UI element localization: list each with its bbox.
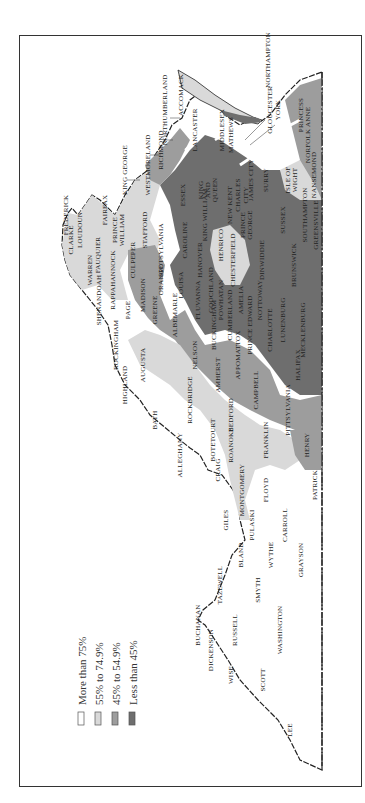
county-label: FREDERICK (62, 195, 70, 236)
county-label: CAMPBELL (252, 371, 260, 410)
county-label: WIGHT (291, 167, 299, 192)
county-label: RUSSELL (231, 614, 239, 646)
legend-item-more-than-75: More than 75% (76, 637, 88, 725)
county-label: CRAIG (214, 459, 222, 482)
county-label: MIDDLESEX (218, 109, 226, 151)
county-label: NANSEMOND (310, 152, 318, 199)
county-label: HENRY (303, 433, 311, 458)
county-label: AMHERST (214, 357, 222, 392)
legend-swatch (129, 712, 135, 725)
county-label: BUCHANAN (194, 604, 202, 645)
county-label: HANOVER (196, 242, 204, 278)
county-label: YORK (274, 100, 282, 121)
county-label: ALLEGHANY (176, 433, 184, 478)
legend-label: 55% to 74.9% (93, 642, 105, 705)
county-label: DICKENSON (207, 629, 215, 671)
county-label: ROCKBRIDGE (186, 376, 194, 424)
county-label: ESSEX (179, 184, 187, 206)
county-label: HENRICO (217, 229, 225, 262)
county-label: CULPEPER (129, 242, 137, 279)
county-label: FAUQUIER (94, 237, 102, 274)
legend-label: More than 75% (76, 637, 88, 705)
county-label: AUGUSTA (139, 348, 147, 382)
county-label: BOTETOURT (209, 418, 217, 461)
county-label: CARROLL (281, 508, 289, 542)
county-label: GEORGE (246, 210, 254, 240)
county-label: MADISON (139, 278, 147, 312)
county-label: KING WILLIAM (201, 188, 209, 241)
county-label: WARREN (86, 255, 94, 286)
county-label: LEE (286, 723, 294, 736)
county-label: GLOUCESTER (266, 86, 274, 134)
county-label: ORANGE (157, 265, 165, 295)
county-label: DINWIDDIE (258, 240, 266, 280)
county-label: NEW KENT (226, 186, 234, 224)
county-label: SUSSEX (279, 206, 287, 233)
legend-swatch (95, 712, 101, 725)
county-label: QUEEN (211, 178, 219, 203)
county-label: MATHEWS (227, 117, 235, 153)
county-label: WASHINGTON (276, 606, 284, 655)
county-label: FRANKLIN (262, 422, 270, 459)
county-label: LANCASTER (191, 108, 199, 151)
county-label: KING GEORGE (121, 145, 129, 195)
county-label: PULASKI (248, 509, 256, 540)
county-label: GREENSVILLE (312, 200, 320, 250)
county-label: PAGE (124, 301, 132, 319)
county-label: CAROLINE (181, 222, 189, 259)
county-label: NELSON (191, 341, 199, 370)
county-label: ROCKINGHAM (112, 319, 120, 370)
county-label: WILLIAM (118, 213, 126, 246)
legend-item-less-than-45: Less than 45% (127, 640, 139, 725)
county-label: PITTSYLVANIA (284, 384, 292, 435)
county-label: NORTHAMPTON (264, 32, 272, 87)
legend-item-55-to-74-9: 55% to 74.9% (93, 642, 105, 725)
legend-label: 45% to 54.9% (110, 642, 122, 705)
county-label: WESTMORELAND (144, 134, 152, 195)
county-label: GILES (222, 510, 230, 531)
county-label: PRINCE EDWARD (246, 295, 254, 354)
county-label: WYTHE (267, 542, 275, 568)
county-label: SCOTT (259, 668, 267, 692)
county-label: BEDFORD (227, 398, 235, 432)
county-label: FLUVANNA (194, 280, 202, 319)
county-label: PATRICK (311, 470, 319, 500)
county-label: HALIFAX (294, 349, 302, 381)
county-label: CUMBERLAND (226, 289, 234, 340)
county-label: SMYTH (254, 577, 262, 603)
county-label: NOTTOWAY (256, 280, 264, 321)
county-label: TAZEWELL (216, 566, 224, 604)
county-label: MONTGOMERY (238, 464, 246, 517)
legend-label: Less than 45% (127, 640, 139, 705)
county-label: SHENANDOAH (95, 275, 103, 326)
legend: More than 75% 55% to 74.9% 45% to 54.9% … (76, 637, 139, 725)
county-label: BATH (151, 410, 159, 429)
county-label: APPOMATTOX (234, 331, 242, 380)
county-label: RAPPAHANNOCK (109, 250, 117, 309)
county-label: AMELIA (237, 286, 245, 314)
county-label: CHESTERFIELD (229, 233, 237, 286)
county-label: FLOYD (262, 478, 270, 502)
county-label: POWHATAN (217, 280, 225, 320)
county-label: LOUDOUN (76, 212, 84, 248)
virginia-county-map: NORTHAMPTONACCOMACKNORTHUMBERLANDLANCAST… (0, 0, 365, 803)
legend-swatch (112, 712, 118, 725)
county-label: SURRY (262, 168, 270, 192)
county-label: ACCOMACK (177, 74, 185, 116)
county-label: LUNENBURG (279, 298, 287, 343)
legend-swatch (78, 712, 84, 725)
county-label: BUCKINGHAM (210, 299, 218, 350)
county-label: ALBEMARLE (171, 293, 179, 338)
county-label: BRUNSWICK (290, 243, 298, 287)
county-label: JAMES CITY (247, 159, 255, 201)
county-label: GREENE (151, 296, 159, 325)
county-label: ROANOKE (227, 427, 235, 463)
legend-item-45-to-54-9: 45% to 54.9% (110, 642, 122, 725)
county-label: RICHMOND (157, 130, 165, 170)
county-label: HIGHLAND (121, 366, 129, 405)
county-label: CHARLES (234, 178, 242, 211)
county-label: BLAND (237, 542, 245, 567)
county-label: SOUTHAMPTON (301, 188, 309, 243)
county-label: WISE (227, 666, 235, 684)
county-label: STAFFORD (141, 212, 149, 249)
